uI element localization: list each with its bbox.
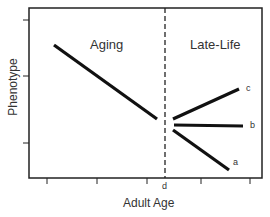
- region-label-late-life: Late-Life: [190, 37, 241, 52]
- x-axis-ticks: [47, 178, 250, 184]
- series-c-line: [173, 89, 239, 119]
- series-label-b: b: [250, 120, 255, 130]
- series-label-a: a: [233, 157, 238, 167]
- y-axis-ticks: [23, 20, 29, 143]
- y-axis-title: Phenotype: [6, 57, 20, 117]
- divider-label-d: d: [162, 181, 167, 191]
- region-label-aging: Aging: [90, 37, 123, 52]
- x-axis-title: Adult Age: [123, 196, 174, 210]
- series-a-line: [173, 130, 229, 170]
- chart-canvas: [0, 0, 270, 217]
- series-b-line: [174, 125, 243, 126]
- series-label-c: c: [246, 83, 251, 93]
- series-aging-line: [54, 45, 157, 119]
